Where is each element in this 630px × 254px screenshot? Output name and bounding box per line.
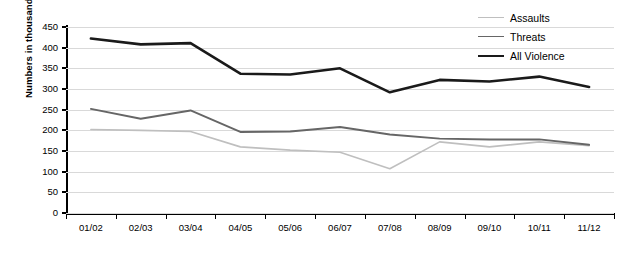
x-axis-tick-label: 06/07 bbox=[314, 222, 366, 233]
x-axis-tick-label: 07/08 bbox=[364, 222, 416, 233]
x-axis-tick-label: 09/10 bbox=[463, 222, 515, 233]
series-line-assaults bbox=[91, 130, 589, 169]
legend-item-threats[interactable]: Threats bbox=[478, 27, 628, 46]
legend-swatch-icon bbox=[478, 55, 504, 57]
x-axis-tick-label: 04/05 bbox=[214, 222, 266, 233]
y-axis-tick-label: 50 bbox=[22, 186, 58, 197]
y-axis-tick-label: 250 bbox=[22, 104, 58, 115]
x-axis-tick-label: 11/12 bbox=[563, 222, 615, 233]
legend-item-assaults[interactable]: Assaults bbox=[478, 8, 628, 27]
y-axis-tick-label: 150 bbox=[22, 145, 58, 156]
legend-swatch-icon bbox=[478, 17, 504, 18]
x-axis-tick-label: 08/09 bbox=[414, 222, 466, 233]
legend-swatch-icon bbox=[478, 36, 504, 37]
x-axis-tick-label: 10/11 bbox=[513, 222, 565, 233]
legend-label: Threats bbox=[510, 31, 546, 43]
gridline bbox=[66, 213, 614, 214]
legend-label: All Violence bbox=[510, 50, 565, 62]
y-axis-tick-label: 350 bbox=[22, 62, 58, 73]
y-axis-tick-label: 450 bbox=[22, 21, 58, 32]
line-chart: Numbers in thousands 4504003503002502001… bbox=[0, 0, 630, 254]
chart-legend: AssaultsThreatsAll Violence bbox=[478, 8, 628, 65]
x-axis-tick-label: 02/03 bbox=[115, 222, 167, 233]
y-axis-tick-label: 100 bbox=[22, 166, 58, 177]
x-axis-tick-label: 01/02 bbox=[65, 222, 117, 233]
x-axis-tick-label: 03/04 bbox=[165, 222, 217, 233]
y-axis-tick-label: 300 bbox=[22, 83, 58, 94]
y-axis-tick-label: 200 bbox=[22, 124, 58, 135]
legend-label: Assaults bbox=[510, 12, 550, 24]
x-axis-tick-mark bbox=[614, 213, 615, 219]
x-axis-tick-label: 05/06 bbox=[264, 222, 316, 233]
legend-item-all-violence[interactable]: All Violence bbox=[478, 46, 628, 65]
series-line-threats bbox=[91, 109, 589, 145]
y-axis-tick-label: 400 bbox=[22, 42, 58, 53]
y-axis-tick-label: 0 bbox=[22, 207, 58, 218]
